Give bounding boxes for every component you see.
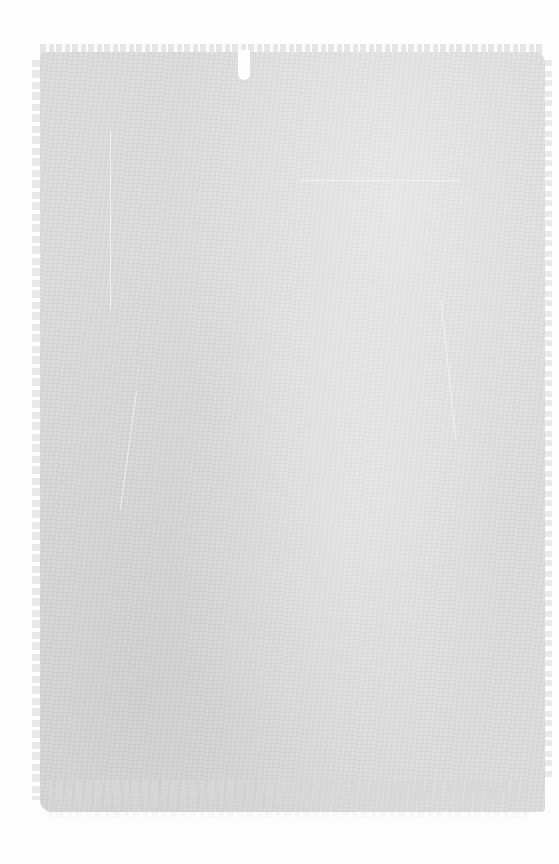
gray-texture-panel bbox=[40, 52, 545, 812]
rough-bottom-edge bbox=[48, 780, 528, 820]
scratch-line bbox=[110, 130, 111, 310]
scratch-line bbox=[300, 180, 460, 181]
top-notch bbox=[238, 50, 250, 80]
